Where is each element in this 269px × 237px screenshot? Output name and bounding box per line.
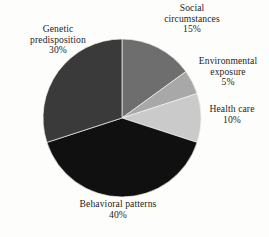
- slice-value-social-circumstances: 15%: [140, 24, 244, 35]
- pie-chart-page: Social circumstances 15% Environmental e…: [0, 0, 269, 237]
- slice-label-social-circumstances: Social circumstances 15%: [140, 3, 244, 35]
- slice-value-health-care: 10%: [196, 115, 268, 126]
- slice-label-behavioral-patterns: Behavioral patterns 40%: [38, 199, 198, 220]
- slice-value-environmental-exposure: 5%: [186, 77, 269, 88]
- slice-label-environmental-exposure: Environmental exposure 5%: [186, 56, 269, 88]
- pie-chart-figure: Social circumstances 15% Environmental e…: [0, 0, 269, 237]
- slice-value-genetic-predisposition: 30%: [6, 45, 110, 56]
- slice-label-genetic-predisposition: Genetic predisposition 30%: [6, 24, 110, 56]
- slice-value-behavioral-patterns: 40%: [38, 210, 198, 221]
- slice-label-health-care: Health care 10%: [196, 104, 268, 125]
- slice-label-environmental-exposure-name: Environmental exposure: [186, 56, 269, 77]
- pie-slice-group: [43, 39, 201, 197]
- clipped-caption-artifact: [6, 232, 264, 237]
- slice-label-social-circumstances-name: Social circumstances: [140, 3, 244, 24]
- slice-label-genetic-predisposition-name: Genetic predisposition: [6, 24, 110, 45]
